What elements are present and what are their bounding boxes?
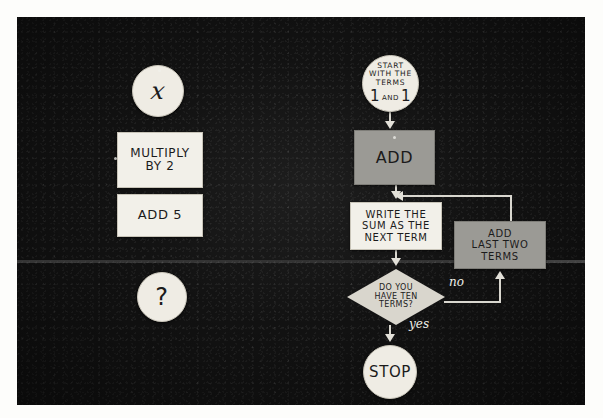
edge-yes-arrow <box>385 334 395 342</box>
pin-dot <box>114 157 117 160</box>
pin-dot <box>393 136 396 139</box>
node-start-num1: 1 <box>370 88 380 105</box>
edge-addlast-to-write-arrow <box>395 191 403 201</box>
decision-label: DO YOU HAVE TEN TERMS? <box>347 269 445 325</box>
node-write-sum: WRITE THE SUM AS THE NEXT TERM <box>350 202 442 250</box>
node-addlast-line3: TERMS <box>472 251 529 262</box>
node-multiply-line2: BY 2 <box>130 160 190 173</box>
node-question-mark-label: ? <box>155 284 168 311</box>
edge-write-to-decide-arrow <box>391 258 401 266</box>
node-addlast-line2: LAST TWO <box>472 239 529 250</box>
edge-start-to-add-arrow <box>385 121 395 129</box>
node-write-line2: SUM AS THE <box>362 220 430 231</box>
node-start-and: AND <box>382 95 399 105</box>
node-add-label: ADD <box>376 149 413 167</box>
photograph: x MULTIPLY BY 2 ADD 5 ? START WITH THE T… <box>17 17 585 405</box>
node-add-5-label: ADD 5 <box>138 208 182 223</box>
edge-no-horizontal <box>444 301 501 303</box>
node-start: START WITH THE TERMS 1 AND 1 <box>362 55 419 112</box>
node-add-last-two-terms: ADD LAST TWO TERMS <box>454 221 546 269</box>
edge-label-yes: yes <box>409 317 429 331</box>
node-stop-label: STOP <box>369 364 411 381</box>
edge-no-vertical <box>499 279 501 302</box>
node-start-line3: TERMS <box>376 79 405 87</box>
node-variable-x: x <box>132 65 184 117</box>
node-variable-x-label: x <box>149 78 167 105</box>
edge-label-no: no <box>449 275 464 289</box>
node-start-terms: 1 AND 1 <box>370 88 411 105</box>
pin-dot <box>158 69 161 72</box>
node-multiply-line1: MULTIPLY <box>130 147 190 160</box>
node-decide-line3: TERMS? <box>374 301 417 310</box>
node-multiply-by-2: MULTIPLY BY 2 <box>117 132 203 188</box>
node-decision-ten-terms: DO YOU HAVE TEN TERMS? <box>347 269 445 325</box>
node-addlast-line1: ADD <box>472 228 529 239</box>
node-add-5: ADD 5 <box>117 194 203 237</box>
edge-no-arrow <box>495 271 505 279</box>
node-write-line1: WRITE THE <box>362 209 430 220</box>
node-write-line3: NEXT TERM <box>362 232 430 243</box>
node-stop: STOP <box>363 345 417 399</box>
page-root: x MULTIPLY BY 2 ADD 5 ? START WITH THE T… <box>0 0 603 418</box>
vignette-overlay <box>17 17 585 405</box>
node-question-mark: ? <box>137 272 187 322</box>
edge-addlast-to-write-vertical <box>510 195 512 223</box>
edge-addlast-to-write-horizontal <box>402 195 512 197</box>
node-start-num2: 1 <box>401 88 411 105</box>
